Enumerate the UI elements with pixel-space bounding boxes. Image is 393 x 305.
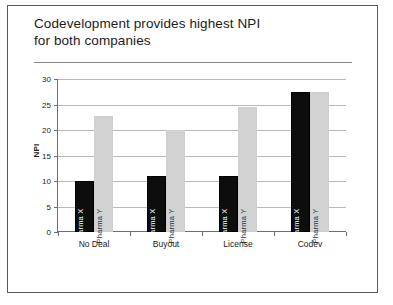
bar-pharma-y-license[interactable]: Pharma Y bbox=[238, 107, 257, 232]
x-tick-label: No Deal bbox=[79, 239, 110, 249]
y-tick-mark bbox=[54, 181, 58, 182]
x-tick-mark bbox=[274, 232, 275, 236]
bar-pharma-x-no-deal[interactable]: Pharma X bbox=[75, 181, 94, 232]
y-tick-label: 10 bbox=[42, 177, 51, 186]
bar-pharma-y-no-deal[interactable]: Pharma Y bbox=[94, 116, 113, 232]
y-axis-title: NPI bbox=[32, 144, 41, 158]
gridline bbox=[58, 79, 346, 80]
y-tick-mark bbox=[54, 156, 58, 157]
y-tick-label: 20 bbox=[42, 126, 51, 135]
x-tick-label: License bbox=[223, 239, 252, 249]
bar-pharma-x-buyout[interactable]: Pharma X bbox=[147, 176, 166, 232]
bar-pharma-y-buyout[interactable]: Pharma Y bbox=[166, 130, 185, 232]
x-tick-label: Codev bbox=[298, 239, 323, 249]
x-tick-mark bbox=[58, 232, 59, 236]
bar-pharma-x-license[interactable]: Pharma X bbox=[219, 176, 238, 232]
y-tick-label: 30 bbox=[42, 75, 51, 84]
y-tick-mark bbox=[54, 207, 58, 208]
y-tick-label: 0 bbox=[47, 228, 51, 237]
bar-pharma-y-codev[interactable]: Pharma Y bbox=[310, 92, 329, 232]
bar-chart: NPI 051015202530 Pharma XPharma YPharma … bbox=[8, 6, 379, 294]
x-tick-mark bbox=[202, 232, 203, 236]
y-tick-mark bbox=[54, 130, 58, 131]
y-tick-mark bbox=[54, 79, 58, 80]
bar-pharma-x-codev[interactable]: Pharma X bbox=[291, 92, 310, 232]
x-tick-mark bbox=[130, 232, 131, 236]
y-tick-label: 15 bbox=[42, 151, 51, 160]
y-tick-mark bbox=[54, 105, 58, 106]
y-tick-label: 25 bbox=[42, 100, 51, 109]
x-tick-mark bbox=[346, 232, 347, 236]
slide-frame: Codevelopment provides highest NPI for b… bbox=[7, 5, 378, 293]
y-tick-label: 5 bbox=[47, 202, 51, 211]
x-tick-label: Buyout bbox=[153, 239, 179, 249]
plot-area: 051015202530 Pharma XPharma YPharma XPha… bbox=[58, 79, 346, 232]
